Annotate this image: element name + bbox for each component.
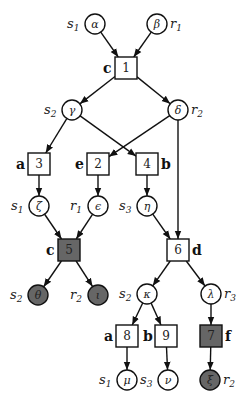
edge-b5-iota (76, 261, 92, 287)
factor-number: 6 (174, 243, 182, 257)
variable-node-eta: ηs3 (119, 196, 157, 216)
node-variable-label: r1 (70, 198, 82, 215)
variable-node-iota: ιr2 (70, 285, 108, 305)
variable-node-nu: νs3 (140, 370, 178, 390)
factor-node-7: 7f (200, 325, 232, 347)
factor-node-5: 5c (46, 239, 80, 261)
variable-node-gamma: γs2 (44, 100, 82, 120)
edge-kappa-b8 (132, 303, 142, 325)
edge-delta-b2 (109, 116, 170, 157)
factor-tag: b (161, 156, 171, 172)
factor-tag: c (46, 242, 55, 258)
edge-b6-lambda (186, 261, 205, 286)
node-variable-label: s1 (99, 372, 111, 389)
node-variable-label: s2 (44, 102, 57, 119)
factor-number: 1 (122, 61, 130, 75)
factor-graph-diagram: αs1βr1γs2δr2ζs1ϵr1ηs3θs2ιr2κs2λr3μs1νs3ξ… (0, 0, 250, 405)
factor-node-1: 1c (103, 57, 137, 79)
node-symbol: ι (96, 289, 100, 302)
node-variable-label: r2 (223, 372, 235, 389)
edge-b9-nu (167, 347, 168, 370)
node-symbol: θ (35, 289, 42, 302)
factor-tag: a (16, 156, 25, 172)
factor-tag: a (104, 328, 113, 344)
node-symbol: δ (175, 104, 182, 117)
node-variable-label: s2 (119, 286, 132, 303)
factor-node-4: 4b (136, 153, 171, 175)
variable-node-kappa: κs2 (119, 284, 157, 304)
factor-number: 4 (143, 157, 151, 171)
edge-b5-theta (44, 261, 62, 287)
factor-number: 9 (162, 329, 170, 343)
node-variable-label: s3 (119, 198, 132, 215)
node-symbol: ξ (207, 374, 214, 387)
node-symbol: ϵ (95, 200, 101, 213)
node-variable-label: r1 (170, 16, 182, 33)
edge-eta-b6 (153, 214, 170, 239)
nodes-layer: αs1βr1γs2δr2ζs1ϵr1ηs3θs2ιr2κs2λr3μs1νs3ξ… (10, 14, 236, 390)
variable-node-epsilon: ϵr1 (70, 196, 108, 216)
factor-tag: b (143, 328, 153, 344)
factor-number: 2 (94, 157, 102, 171)
node-symbol: β (153, 18, 160, 31)
variable-node-zeta: ζs1 (11, 196, 49, 216)
factor-node-6: 6d (167, 239, 202, 261)
edge-gamma-b4 (80, 116, 136, 156)
edge-b7-xi (210, 347, 211, 370)
factor-tag: e (75, 156, 84, 172)
node-symbol: μ (123, 374, 130, 387)
node-symbol: ζ (36, 200, 43, 213)
edge-b1-delta (137, 77, 170, 104)
node-variable-label: s1 (67, 16, 79, 33)
node-symbol: γ (69, 104, 76, 117)
node-variable-label: r3 (224, 286, 236, 303)
factor-tag: d (192, 242, 202, 258)
edge-zeta-b5 (45, 214, 62, 239)
node-symbol: η (144, 200, 151, 213)
node-symbol: κ (142, 288, 151, 301)
factor-node-9: 9b (143, 325, 177, 347)
factor-number: 7 (207, 329, 215, 343)
variable-node-lambda: λr3 (201, 284, 236, 304)
variable-node-beta: βr1 (147, 14, 182, 34)
factor-number: 8 (123, 329, 131, 343)
node-variable-label: s2 (10, 287, 23, 304)
factor-node-3: 3a (16, 153, 50, 175)
factor-number: 3 (35, 157, 43, 171)
variable-node-alpha: αs1 (67, 14, 105, 34)
variable-node-theta: θs2 (10, 285, 48, 305)
edge-b6-kappa (153, 261, 170, 286)
edge-b1-gamma (80, 77, 115, 104)
variable-node-delta: δr2 (168, 100, 203, 120)
node-symbol: λ (207, 288, 215, 301)
node-variable-label: r2 (191, 102, 203, 119)
factor-tag: f (225, 328, 232, 344)
node-symbol: ν (165, 374, 172, 387)
node-variable-label: r2 (70, 287, 82, 304)
edge-kappa-b9 (151, 303, 161, 325)
variable-node-mu: μs1 (99, 370, 137, 390)
factor-number: 5 (65, 243, 73, 257)
variable-node-xi: ξr2 (200, 370, 235, 390)
node-variable-label: s3 (140, 372, 153, 389)
node-symbol: α (91, 18, 99, 31)
edge-alpha-b1 (101, 32, 118, 57)
edge-beta-b1 (134, 32, 151, 57)
node-variable-label: s1 (11, 198, 23, 215)
factor-tag: c (103, 60, 112, 76)
edge-gamma-b3 (46, 119, 67, 153)
edge-epsilon-b5 (76, 214, 92, 239)
factor-node-2: 2e (75, 153, 109, 175)
factor-node-8: 8a (104, 325, 138, 347)
